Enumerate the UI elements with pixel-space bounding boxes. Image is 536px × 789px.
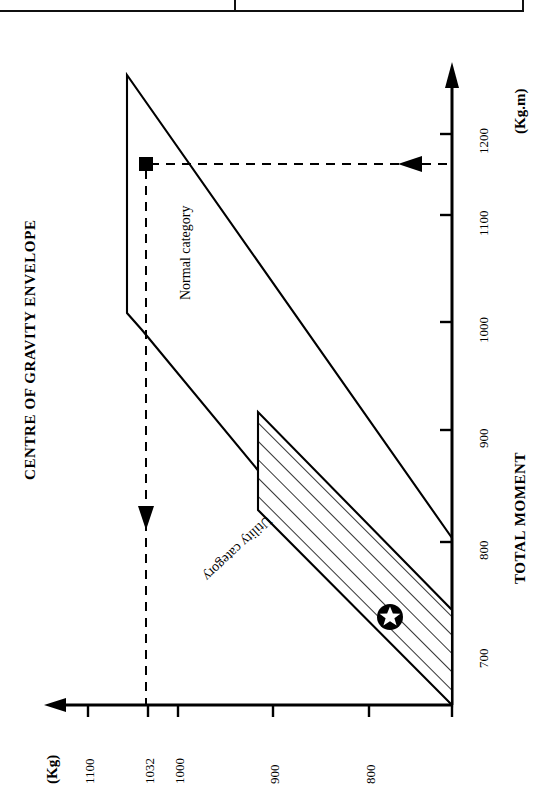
- weight-tick-label: 1000: [172, 758, 188, 784]
- moment-axis-arrowhead: [445, 62, 459, 88]
- weight-tick-label: 900: [267, 765, 283, 785]
- moment-projection-arrowhead: [398, 156, 422, 172]
- weight-tick-label: 800: [363, 765, 379, 785]
- weight-projection-arrowhead: [138, 506, 154, 530]
- utility-point-marker: [377, 604, 403, 630]
- moment-tick-label: 1000: [476, 317, 492, 343]
- weight-tick-label: 1100: [82, 758, 98, 784]
- figure-canvas: 2 5/2 2 L A A A 2: [0, 0, 536, 789]
- cg-envelope-drawing: [0, 0, 536, 789]
- weight-axis-unit: (Kg): [44, 755, 61, 784]
- weight-projection-line: [138, 170, 154, 705]
- moment-tick-label: 1200: [476, 128, 492, 154]
- moment-axis-title: TOTAL MOMENT: [512, 452, 529, 584]
- moment-tick-label: 900: [476, 429, 492, 449]
- loading-point-marker: [139, 157, 153, 171]
- normal-category-label: Normal category: [178, 206, 194, 300]
- moment-tick-label: 800: [476, 541, 492, 561]
- weight-axis-arrowhead: [44, 698, 66, 712]
- weight-tick-label-highlight: 1032: [142, 758, 158, 784]
- moment-axis-unit: (Kg.m): [512, 89, 529, 134]
- weight-axis: [44, 698, 452, 717]
- moment-tick-label: 1100: [476, 210, 492, 236]
- figure-title: CENTRE OF GRAVITY ENVELOPE: [22, 220, 39, 481]
- moment-projection-line: [150, 156, 452, 172]
- moment-tick-label: 700: [476, 649, 492, 669]
- utility-category-region: [258, 412, 452, 705]
